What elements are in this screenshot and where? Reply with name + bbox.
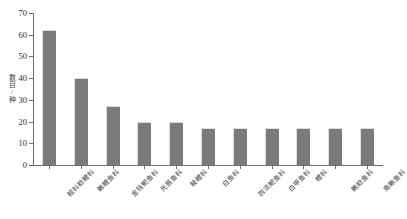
bar <box>296 128 310 165</box>
bar <box>106 106 120 165</box>
x-axis-tick-label: 白甲鱼科 <box>287 168 312 193</box>
y-axis-tick <box>29 122 33 123</box>
y-axis-tick-label: 70 <box>19 9 28 18</box>
y-axis-tick <box>29 13 33 14</box>
y-axis-tick <box>29 78 33 79</box>
bar <box>233 128 247 165</box>
x-axis-tick-label: 白鱼科 <box>221 168 241 188</box>
x-axis-tick-label: 鲮鲤科 <box>189 168 209 188</box>
bar <box>137 122 151 165</box>
y-axis-tick <box>29 35 33 36</box>
bar <box>265 128 279 165</box>
x-axis-tick-label: 鲤科 <box>315 168 330 183</box>
x-axis-tick-label: 光唇鱼科 <box>160 168 185 193</box>
y-axis-title: 数目/种 <box>2 58 16 118</box>
y-axis-tick-label: 10 <box>19 139 28 148</box>
y-axis-tick-label: 50 <box>19 52 28 61</box>
y-axis-tick <box>29 100 33 101</box>
y-axis-tick-label: 0 <box>23 161 27 170</box>
x-axis-tick-label: 鲿科鲶鲤科 <box>66 168 96 198</box>
bar <box>74 78 88 165</box>
x-axis-tick-label: 鳅鲤鱼科 <box>96 168 121 193</box>
bar <box>360 128 374 165</box>
y-axis-tick-label: 30 <box>19 96 28 105</box>
x-axis-tick-label: 金钱鲃鱼科 <box>130 168 160 198</box>
y-axis-tick <box>29 143 33 144</box>
plot-area: 010203040506070 <box>33 13 383 166</box>
bar <box>328 128 342 165</box>
bar <box>201 128 215 165</box>
y-axis-tick-label: 40 <box>19 74 28 83</box>
bar <box>169 122 183 165</box>
x-axis-category-labels: 鲿科鲶鲤科鳅鲤鱼科金钱鲃鱼科光唇鱼科鲮鲤科白鱼科四须鲃鱼科白甲鱼科鲤科鳅鲶鱼科南… <box>33 166 383 219</box>
y-axis-tick <box>29 56 33 57</box>
y-axis-tick-label: 60 <box>19 30 28 39</box>
x-axis-tick-label: 四须鲃鱼科 <box>257 168 287 198</box>
bar-series <box>33 13 383 165</box>
y-axis-tick-label: 20 <box>19 117 28 126</box>
x-axis-tick-label: 南鳅鱼科 <box>382 168 407 193</box>
bar <box>42 30 56 165</box>
x-axis-tick-label: 鳅鲶鱼科 <box>350 168 375 193</box>
